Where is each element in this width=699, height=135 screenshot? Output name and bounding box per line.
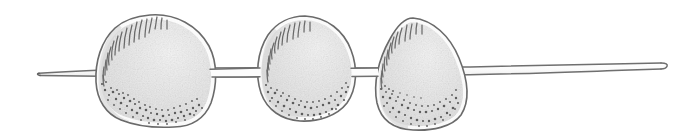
stem-segment-2-3	[352, 68, 378, 76]
illustration-canvas: Three rounded bodies threaded on a slend…	[0, 0, 699, 135]
body-left	[96, 15, 216, 127]
body-middle	[258, 16, 356, 121]
illustration-svg	[0, 0, 699, 135]
body-right	[376, 18, 467, 130]
